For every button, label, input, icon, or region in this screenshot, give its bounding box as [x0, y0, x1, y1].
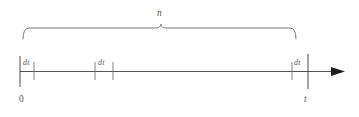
- brace-label-n: n: [157, 9, 162, 19]
- axis-group: [20, 67, 345, 76]
- brace-group: [23, 24, 296, 39]
- brace-n: [23, 24, 296, 39]
- dt-label-middle: dt: [98, 59, 105, 67]
- dt-label-first: dt: [23, 59, 30, 67]
- dt-label-last: dt: [294, 59, 301, 67]
- end-time-label: t: [304, 95, 307, 105]
- axis-arrowhead-icon: [331, 67, 345, 76]
- time-axis-diagram: n dt dt dt 0 t: [0, 0, 359, 117]
- origin-label: 0: [19, 95, 24, 105]
